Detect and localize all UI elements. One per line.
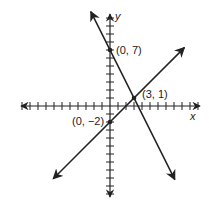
y-axis-label: y — [114, 10, 122, 22]
point-label-0-neg2: (0, −2) — [72, 115, 104, 127]
point-3-1 — [132, 96, 137, 101]
point-0-7 — [108, 48, 113, 53]
point-label-3-1: (3, 1) — [142, 88, 168, 100]
coordinate-plane: y x (0, 7) (3, 1) (0, −2) — [0, 0, 209, 204]
point-label-0-7: (0, 7) — [116, 44, 142, 56]
x-axis-label: x — [189, 110, 196, 122]
point-0-neg2 — [108, 120, 113, 125]
